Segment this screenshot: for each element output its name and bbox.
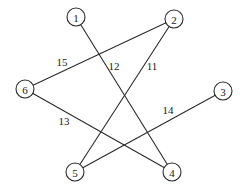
edge-weight-label: 15: [57, 56, 69, 68]
node-label: 5: [72, 167, 78, 179]
node-label: 1: [73, 12, 79, 24]
node-label: 3: [220, 86, 226, 98]
node-2: 2: [165, 10, 183, 28]
node-label: 2: [171, 14, 177, 26]
node-6: 6: [16, 80, 34, 98]
node-label: 4: [169, 167, 175, 179]
node-1: 1: [67, 8, 85, 26]
edge-weight-label: 13: [59, 115, 71, 127]
edge-weight-label: 11: [147, 60, 158, 72]
node-4: 4: [163, 163, 181, 181]
edges-layer: [25, 17, 223, 172]
edge-3-5: [75, 91, 223, 172]
node-label: 6: [22, 84, 28, 96]
edge-weight-label: 14: [163, 104, 175, 116]
edge-weight-label: 12: [109, 60, 120, 72]
node-5: 5: [66, 163, 84, 181]
weighted-graph-diagram: 1215111314 123456: [0, 0, 248, 190]
node-3: 3: [214, 82, 232, 100]
